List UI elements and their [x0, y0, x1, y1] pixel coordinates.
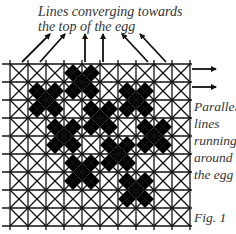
converging-lines-caption: Lines converging towards the top of the … — [38, 4, 228, 34]
side-caption-line-3: running — [194, 132, 236, 149]
side-caption-line-1: Parallel — [194, 98, 236, 115]
caption-line-1: Lines converging towards — [38, 4, 228, 19]
converging-arrow-icon — [22, 34, 50, 62]
side-caption-line-2: lines — [194, 115, 236, 132]
figure-label: Fig. 1 — [194, 210, 226, 225]
side-caption-line-5: the egg — [194, 166, 236, 183]
parallel-lines-caption: Parallel lines running around the egg — [194, 98, 236, 183]
converging-arrow-icon — [40, 34, 65, 62]
side-caption-line-4: around — [194, 149, 236, 166]
caption-line-2: the top of the egg — [38, 19, 228, 34]
